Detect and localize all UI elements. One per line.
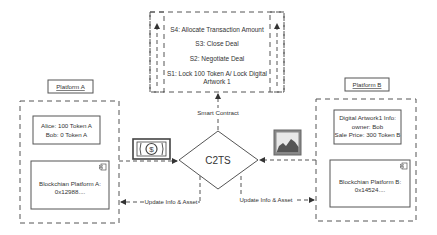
blockchain-a-address: 0x12988.... (55, 188, 86, 195)
svg-text:$: $ (149, 145, 154, 154)
update-arrow-left: Update Info & Asset (121, 176, 200, 206)
artwork-owner: owner: Bob (352, 123, 384, 130)
platform-a: Platform A Alice: 100 Token A Bob: 0 Tok… (20, 80, 119, 223)
c2ts-label: C2TS (205, 155, 231, 166)
platform-b: Platform B Digital Artwork1 Info: owner:… (316, 78, 416, 221)
update-label-right: Update Info & Asset (239, 197, 292, 203)
step-1: S1: Lock 100 Token A/ Lock Digital (167, 70, 268, 78)
blockchain-b-label: Blockchian Platform B: (339, 178, 402, 185)
step-1-cont: Artwork 1 (203, 78, 231, 85)
update-arrow-right: Update Info & Asset (239, 176, 314, 204)
artwork-title: Digital Artwork1 Info: (339, 114, 396, 121)
c2ts-diamond[interactable]: C2TS (179, 131, 258, 189)
step-3: S3: Close Deal (195, 40, 239, 47)
step-2: S2: Negotiate Deal (190, 55, 245, 63)
smart-contract-label: Smart Contract (197, 109, 239, 116)
platform-b-title: Platform B (353, 81, 382, 88)
update-label-left: Update Info & Asset (144, 199, 197, 205)
artwork-price: Sale Price: 300 Token B (335, 131, 401, 138)
blockchain-b-address: 0x14524.... (355, 186, 386, 193)
balance-bob: Bob: 0 Token A (46, 131, 88, 138)
platform-a-title: Platform A (56, 83, 85, 90)
step-4: S4: Allocate Transaction Amount (170, 26, 264, 33)
steps-box: S4: Allocate Transaction Amount S3: Clos… (150, 12, 284, 92)
blockchain-a-label: Blockchian Platform A: (39, 180, 101, 187)
picture-icon (274, 130, 301, 155)
balance-alice: Alice: 100 Token A (41, 122, 93, 129)
diagram-canvas: S4: Allocate Transaction Amount S3: Clos… (0, 0, 437, 235)
money-bill-icon: $ (133, 139, 170, 159)
platform-a-balance-box (33, 116, 100, 144)
